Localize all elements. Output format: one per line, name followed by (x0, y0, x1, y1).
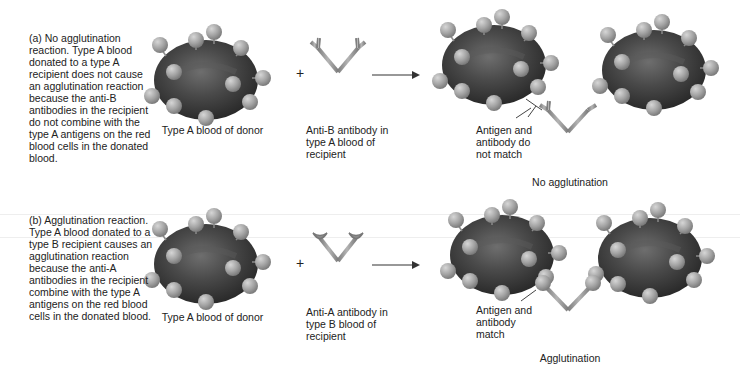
panel-a-result-label: No agglutination (530, 176, 610, 188)
arrow-icon-a (372, 71, 420, 79)
unbound-antibody-icon (540, 101, 596, 165)
donor-cell-b (144, 208, 271, 310)
bridging-antibody-icon (535, 275, 601, 343)
recipient-cell-a-left (432, 9, 559, 111)
panel-b-result-label: Agglutination (530, 352, 610, 364)
recipient-cell-a-right (592, 14, 719, 116)
recipient-cell-b-right (588, 202, 715, 304)
anti-b-antibody-icon (311, 38, 365, 102)
panel-a-description: (a) No agglutination reaction. Type A bl… (29, 32, 154, 164)
plus-sign-b: + (296, 255, 304, 271)
plus-sign-a: + (296, 65, 304, 81)
match-pointer (521, 290, 536, 301)
mismatch-pointer (516, 99, 542, 118)
arrow-icon-b (372, 261, 420, 269)
panel-a-mismatch-label: Antigen and antibody do not match (476, 124, 538, 160)
donor-cell-a (144, 24, 271, 126)
panel-b-antibody-label: Anti-A antibody in type B blood of recip… (306, 306, 396, 342)
panel-b-match-label: Antigen and antibody match (476, 304, 538, 340)
panel-a-antibody-label: Anti-B antibody in type A blood of recip… (306, 124, 396, 160)
panel-a-donor-label: Type A blood of donor (150, 124, 275, 136)
panel-b-description: (b) Agglutination reaction. Type A blood… (29, 214, 154, 322)
anti-a-antibody-icon (313, 233, 363, 292)
panel-b-donor-label: Type A blood of donor (150, 311, 275, 323)
